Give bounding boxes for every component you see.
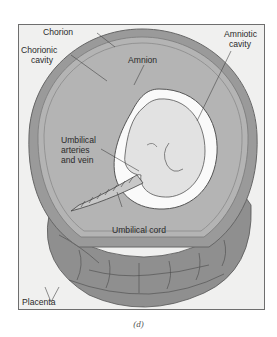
- label-umbilical-cord: Umbilical cord: [112, 225, 166, 235]
- embryo-diagram: [19, 25, 265, 310]
- label-placenta: Placenta: [22, 297, 55, 307]
- label-umbilical-vessels-line1: Umbilical: [61, 135, 96, 145]
- label-chorion: Chorion: [43, 27, 73, 37]
- figure-caption: (d): [0, 319, 277, 329]
- label-amnion: Amnion: [128, 55, 157, 65]
- figure-frame: Chorion Chorionic cavity Amnion Amniotic…: [18, 24, 265, 310]
- label-umbilical-vessels-line3: and vein: [61, 155, 94, 165]
- label-amniotic-cavity-line1: Amniotic: [224, 29, 257, 39]
- label-chorionic-cavity-line1: Chorionic: [21, 45, 57, 55]
- label-umbilical-vessels-line2: arteries: [61, 145, 90, 155]
- label-chorionic-cavity-line2: cavity: [31, 55, 53, 65]
- label-amniotic-cavity-line2: cavity: [229, 39, 251, 49]
